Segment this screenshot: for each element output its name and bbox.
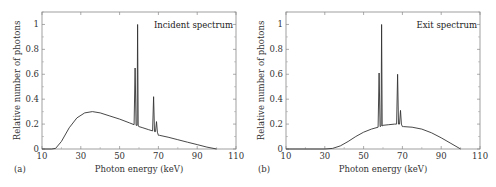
y-tick-label: 0 (278, 144, 283, 154)
chart-panel-a: 103050709011000.20.40.60.81Incident spec… (0, 0, 248, 187)
x-axis-label: Photon energy (keV) (95, 164, 184, 174)
y-tick-label: 1 (278, 19, 283, 29)
incident-spectrum-chart: 103050709011000.20.40.60.81Incident spec… (0, 0, 248, 187)
spectrum-line (286, 25, 461, 150)
y-tick-label: 0.4 (25, 94, 39, 104)
x-tick-label: 110 (228, 151, 244, 161)
x-tick-label: 70 (153, 151, 164, 161)
x-axis-label: Photon energy (keV) (339, 164, 428, 174)
y-axis-label: Relative number of photons (12, 21, 22, 141)
y-tick-label: 0.2 (269, 119, 283, 129)
x-tick-label: 70 (397, 151, 408, 161)
legend-label: Incident spectrum (154, 20, 233, 30)
panel-label: (a) (14, 164, 26, 174)
y-axis-label: Relative number of photons (256, 21, 266, 141)
x-tick-label: 30 (319, 151, 330, 161)
y-tick-label: 0 (34, 144, 39, 154)
spectrum-line (42, 25, 217, 150)
plot-frame (42, 12, 236, 149)
y-tick-label: 0.8 (269, 44, 283, 54)
y-tick-label: 0.4 (269, 94, 283, 104)
plot-frame (286, 12, 480, 149)
panel-label: (b) (258, 164, 270, 174)
y-tick-label: 0.2 (25, 119, 39, 129)
x-tick-label: 90 (192, 151, 203, 161)
exit-spectrum-chart: 103050709011000.20.40.60.81Exit spectrum… (248, 0, 496, 187)
y-tick-label: 0.6 (269, 69, 283, 79)
y-tick-label: 1 (34, 19, 39, 29)
x-tick-label: 110 (472, 151, 488, 161)
legend-label: Exit spectrum (417, 20, 477, 30)
x-tick-label: 50 (114, 151, 125, 161)
chart-panel-b: 103050709011000.20.40.60.81Exit spectrum… (248, 0, 496, 187)
y-tick-label: 0.6 (25, 69, 39, 79)
x-tick-label: 30 (75, 151, 86, 161)
x-tick-label: 50 (358, 151, 369, 161)
x-tick-label: 90 (436, 151, 447, 161)
y-tick-label: 0.8 (25, 44, 39, 54)
